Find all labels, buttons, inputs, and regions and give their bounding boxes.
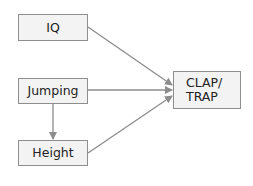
- edge-height-to-clap-trap: [88, 96, 172, 153]
- node-iq-label: IQ: [46, 21, 60, 35]
- node-clap-trap-line2: TRAP: [186, 90, 218, 104]
- node-clap-trap-line1: CLAP/: [186, 76, 222, 90]
- node-jumping: Jumping: [18, 78, 88, 104]
- node-jumping-label: Jumping: [27, 84, 78, 98]
- node-height: Height: [18, 140, 88, 166]
- edge-iq-to-clap-trap: [88, 27, 172, 85]
- node-clap-trap: CLAP/ TRAP: [173, 71, 241, 109]
- node-iq: IQ: [18, 14, 88, 41]
- node-height-label: Height: [32, 146, 73, 160]
